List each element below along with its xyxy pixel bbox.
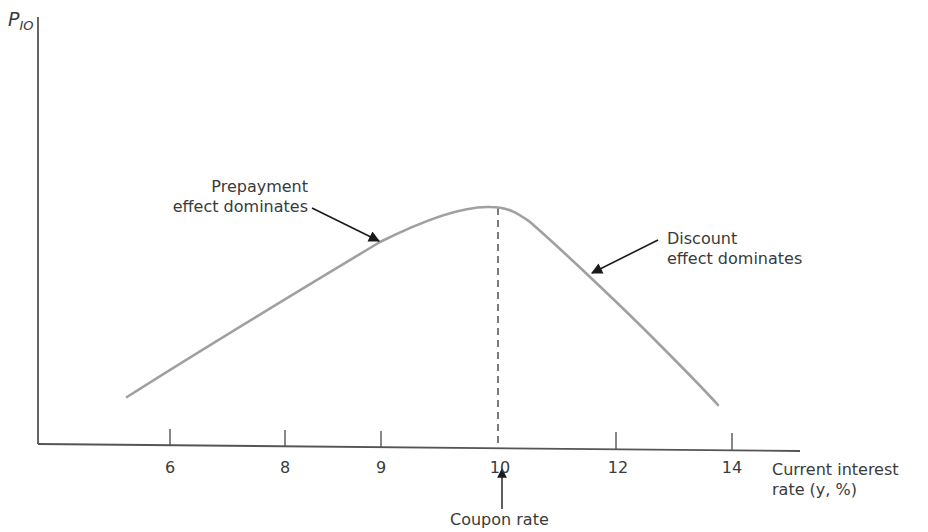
prepayment-annotation-line1: Prepayment	[140, 177, 308, 197]
discount-arrow	[592, 240, 658, 273]
prepayment-annotation-line2: effect dominates	[140, 197, 308, 217]
prepayment-annotation: Prepayment effect dominates	[140, 177, 308, 217]
pio-curve	[127, 207, 718, 405]
x-axis-label: Current interest rate (y, %)	[772, 460, 899, 500]
prepayment-arrow	[312, 208, 379, 241]
x-tick-label-14: 14	[722, 458, 742, 477]
x-axis-label-line1: Current interest	[772, 460, 899, 480]
discount-annotation-line2: effect dominates	[667, 249, 802, 269]
x-tick-label-12: 12	[608, 458, 628, 477]
x-tick-label-8: 8	[280, 458, 290, 477]
y-axis-label: PIO	[8, 8, 34, 33]
x-tick-label-10: 10	[490, 458, 510, 477]
coupon-rate-label: Coupon rate	[450, 510, 549, 530]
x-axis-label-line2: rate (y, %)	[772, 480, 899, 500]
x-tick-label-6: 6	[165, 458, 175, 477]
y-axis-label-subscript: IO	[19, 18, 33, 33]
discount-annotation: Discount effect dominates	[667, 229, 802, 269]
discount-annotation-line1: Discount	[667, 229, 802, 249]
x-tick-label-9: 9	[376, 458, 386, 477]
x-axis	[38, 444, 800, 451]
y-axis-label-main: P	[8, 8, 19, 30]
